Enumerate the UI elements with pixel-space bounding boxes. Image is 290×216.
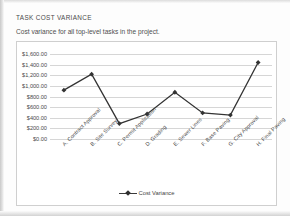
y-axis-tick-label: $0.00 [33,136,47,142]
y-axis-tick-label: $1,200.00 [22,72,47,78]
scan-edge-bottom [0,211,290,216]
chart-container: $0.00$200.00$400.00$600.00$800.00$1,000.… [16,41,277,206]
page-title: TASK COST VARIANCE [16,14,92,21]
y-axis-tick-label: $1,000.00 [22,83,47,89]
chart-legend: Cost Variance [17,190,276,196]
y-axis-tick-label: $400.00 [27,115,47,121]
page-subtitle: Cost variance for all top-level tasks in… [16,28,160,35]
y-axis-tick-label: $200.00 [27,125,47,131]
data-point-marker [228,113,233,118]
report-card: TASK COST VARIANCE Cost variance for all… [14,8,280,208]
y-axis-tick-label: $800.00 [27,94,47,100]
scan-edge-top [0,0,290,3]
y-axis-tick-label: $600.00 [27,104,47,110]
y-axis-tick-label: $1,400.00 [22,62,47,68]
scan-edge-left [0,0,4,216]
scanned-page: TASK COST VARIANCE Cost variance for all… [0,0,290,216]
y-axis-tick-label: $1,600.00 [22,51,47,57]
legend-label-cost-variance: Cost Variance [139,190,175,196]
legend-marker-icon [119,191,137,196]
data-point-marker [256,60,261,65]
